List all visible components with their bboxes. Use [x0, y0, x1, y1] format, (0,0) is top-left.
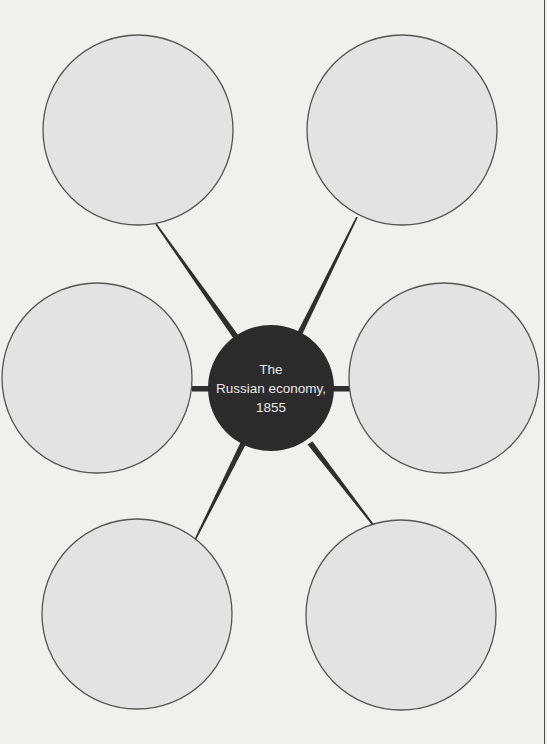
connector-bottom-left — [194, 443, 245, 541]
node-circle-middle-right[interactable] — [349, 283, 539, 473]
hub-circle — [208, 325, 334, 451]
node-circle-bottom-left[interactable] — [42, 519, 232, 709]
node-circle-top-left[interactable] — [43, 35, 233, 225]
connector-top-right — [296, 217, 358, 338]
connector-bottom-right — [308, 442, 375, 527]
connector-middle-left — [192, 386, 209, 392]
node-circle-middle-left[interactable] — [2, 283, 192, 473]
node-circle-bottom-right[interactable] — [306, 520, 496, 710]
spider-diagram — [0, 0, 547, 744]
node-circle-top-right[interactable] — [307, 35, 497, 225]
connector-middle-right — [333, 386, 350, 392]
